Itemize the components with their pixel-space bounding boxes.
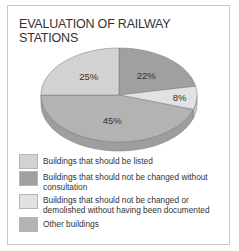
- legend-swatch: [19, 217, 38, 232]
- legend: Buildings that should be listed Building…: [19, 154, 229, 234]
- legend-label: Other buildings: [43, 217, 99, 229]
- legend-item: Buildings that should be listed: [19, 154, 229, 169]
- legend-item: Buildings that should not be changed or …: [19, 194, 229, 215]
- legend-swatch: [19, 171, 38, 186]
- legend-swatch: [19, 154, 38, 169]
- slice-data-label: 25%: [79, 71, 99, 82]
- legend-swatch: [19, 194, 38, 209]
- slice-data-label: 22%: [137, 70, 157, 81]
- legend-label: Buildings that should not be changed wit…: [43, 171, 229, 192]
- legend-item: Other buildings: [19, 217, 229, 232]
- slice-data-label: 8%: [173, 92, 187, 103]
- legend-item: Buildings that should not be changed wit…: [19, 171, 229, 192]
- legend-label: Buildings that should be listed: [43, 154, 153, 166]
- legend-label: Buildings that should not be changed or …: [43, 194, 229, 215]
- slice-data-label: 45%: [103, 115, 123, 126]
